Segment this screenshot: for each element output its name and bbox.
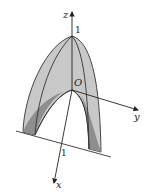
- z-axis-label: z: [62, 9, 69, 20]
- x-tick-label: 1: [61, 148, 67, 158]
- x-axis-label: x: [56, 179, 62, 190]
- y-axis-label: y: [133, 111, 140, 122]
- origin-label: O: [74, 77, 82, 88]
- x-axis: [54, 90, 72, 183]
- surface-diagram: z 1 O y 1 x: [0, 0, 149, 194]
- z-tick-label: 1: [75, 25, 81, 35]
